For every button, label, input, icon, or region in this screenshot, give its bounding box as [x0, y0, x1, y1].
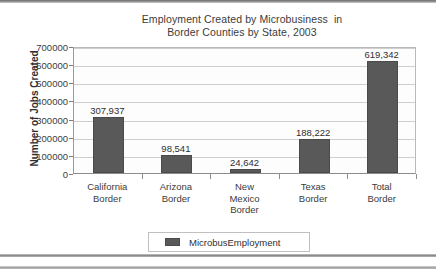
- gridline: [74, 102, 415, 103]
- bar-value-label: 188,222: [283, 127, 343, 138]
- chart-title: Employment Created by Microbusiness in B…: [68, 13, 416, 39]
- x-axis-label-line: Border: [279, 193, 347, 205]
- y-axis-tick-label: 500000: [10, 78, 68, 89]
- bar: [230, 169, 261, 173]
- gridline: [74, 139, 415, 140]
- x-axis-label-line: California: [73, 181, 141, 193]
- y-axis-tick-label: 200000: [10, 132, 68, 143]
- bar: [93, 117, 124, 173]
- x-axis-tick-mark: [347, 174, 348, 179]
- x-axis-category-label: TexasBorder: [279, 181, 347, 204]
- bar-value-label: 619,342: [352, 49, 412, 60]
- x-axis-label-line: Border: [211, 204, 279, 216]
- x-axis-label-line: Border: [73, 193, 141, 205]
- chart-page: Employment Created by Microbusiness in B…: [0, 0, 436, 269]
- scan-artifact-top: [0, 0, 436, 3]
- gridline: [74, 84, 415, 85]
- bar: [299, 139, 330, 173]
- legend-label-microbus-employment: MicrobusEmployment: [189, 237, 280, 248]
- bar-value-label: 24,642: [215, 157, 275, 168]
- y-axis-tick-label: 600000: [10, 60, 68, 71]
- bar: [367, 61, 398, 173]
- x-axis-label-line: Border: [142, 193, 210, 205]
- x-axis-tick-mark: [210, 174, 211, 179]
- chart-title-line-1: Employment Created by Microbusiness in: [68, 13, 416, 26]
- x-axis-tick-mark: [279, 174, 280, 179]
- y-axis-tick-label: 100000: [10, 150, 68, 161]
- y-axis-tick-label: 300000: [10, 114, 68, 125]
- gridline: [74, 121, 415, 122]
- x-axis-category-label: NewMexicoBorder: [211, 181, 279, 216]
- legend-swatch-microbus-employment: [165, 238, 180, 246]
- x-axis-label-line: Total: [348, 181, 416, 193]
- x-axis-label-line: Mexico: [211, 193, 279, 205]
- x-axis-label-line: New: [211, 181, 279, 193]
- y-axis-tick-label: 0: [10, 169, 68, 180]
- scan-artifact-bottom: [0, 254, 436, 257]
- gridline: [74, 66, 415, 67]
- chart-legend: MicrobusEmployment: [148, 232, 310, 252]
- bar-value-label: 98,541: [146, 143, 206, 154]
- x-axis-category-label: CaliforniaBorder: [73, 181, 141, 204]
- y-axis-tick-label: 400000: [10, 96, 68, 107]
- x-axis-category-label: ArizonaBorder: [142, 181, 210, 204]
- y-axis-tick-label: 700000: [10, 42, 68, 53]
- y-axis-tick-mark: [69, 174, 73, 175]
- x-axis-label-line: Arizona: [142, 181, 210, 193]
- x-axis-tick-mark: [416, 174, 417, 179]
- bar-value-label: 307,937: [77, 105, 137, 116]
- x-axis-label-line: Texas: [279, 181, 347, 193]
- chart-title-line-2: Border Counties by State, 2003: [68, 26, 416, 39]
- x-axis-label-line: Border: [348, 193, 416, 205]
- x-axis-category-label: TotalBorder: [348, 181, 416, 204]
- bar: [161, 155, 192, 173]
- x-axis-tick-mark: [142, 174, 143, 179]
